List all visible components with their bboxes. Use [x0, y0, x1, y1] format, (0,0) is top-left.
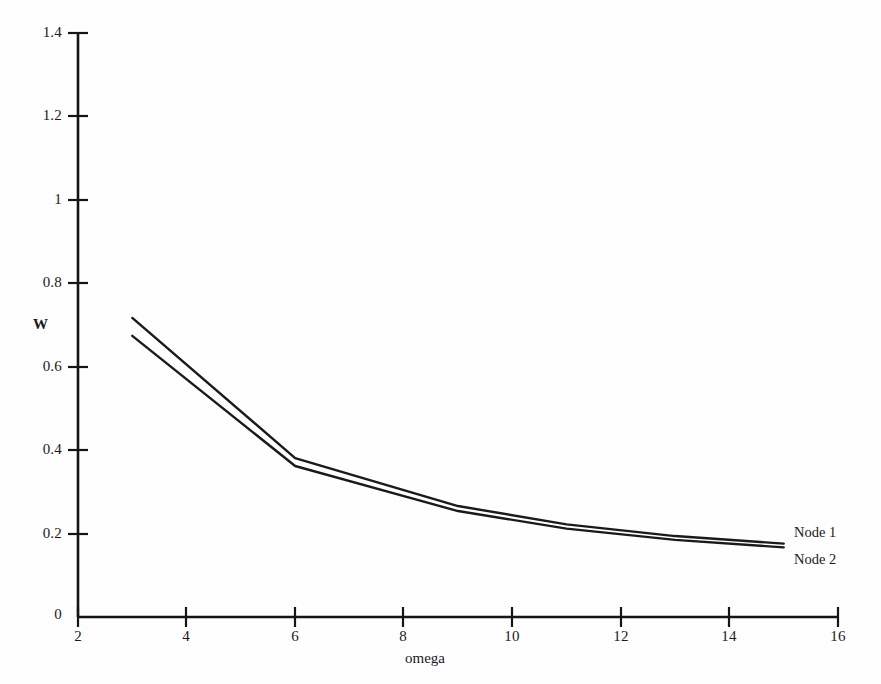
x-tick-label-16: 16 [818, 628, 858, 645]
x-tick-label-14: 14 [709, 628, 749, 645]
y-tick-label-0-8: 0.8 [20, 274, 62, 291]
chart-plot-area [0, 0, 881, 684]
x-tick-label-2: 2 [58, 628, 98, 645]
series-line-node-2 [132, 336, 783, 547]
chart-figure: 1.4 1.2 1 0.8 0.6 0.4 0.2 0 2 4 6 8 10 1… [0, 0, 881, 684]
axis-lines [78, 33, 838, 617]
x-tick-label-8: 8 [383, 628, 423, 645]
y-tick-label-1-2: 1.2 [20, 107, 62, 124]
y-tick-label-0-2: 0.2 [20, 525, 62, 542]
y-axis-title: W [33, 316, 48, 333]
y-tick-label-1: 1 [20, 191, 62, 208]
x-tick-label-6: 6 [275, 628, 315, 645]
series-line-node-1 [132, 318, 783, 544]
y-tick-label-1-4: 1.4 [20, 24, 62, 41]
y-tick-label-0: 0 [20, 606, 62, 623]
x-tick-label-4: 4 [166, 628, 206, 645]
series-label-node-1: Node 1 [794, 524, 836, 541]
x-tick-label-10: 10 [492, 628, 532, 645]
series-label-node-2: Node 2 [794, 551, 836, 568]
data-series-group [132, 318, 783, 547]
x-axis-title: omega [405, 650, 445, 667]
y-tick-label-0-4: 0.4 [20, 441, 62, 458]
x-tick-label-12: 12 [601, 628, 641, 645]
y-tick-label-0-6: 0.6 [20, 358, 62, 375]
